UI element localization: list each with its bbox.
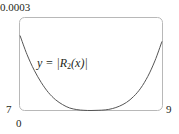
curve-label-suffix: (x)|	[71, 56, 88, 70]
curve-label-prefix: y = |	[37, 56, 60, 70]
curve-annotation: y = |R2(x)|	[37, 58, 88, 69]
x-axis-min-label: 7	[6, 104, 12, 115]
chart-plot-area	[0, 0, 179, 134]
curve-label-R: R	[60, 56, 67, 70]
y-axis-min-label: 0	[16, 118, 22, 129]
y-axis-max-label: 0.0003	[0, 2, 30, 13]
x-axis-max-label: 9	[166, 104, 172, 115]
remainder-curve	[20, 36, 162, 111]
